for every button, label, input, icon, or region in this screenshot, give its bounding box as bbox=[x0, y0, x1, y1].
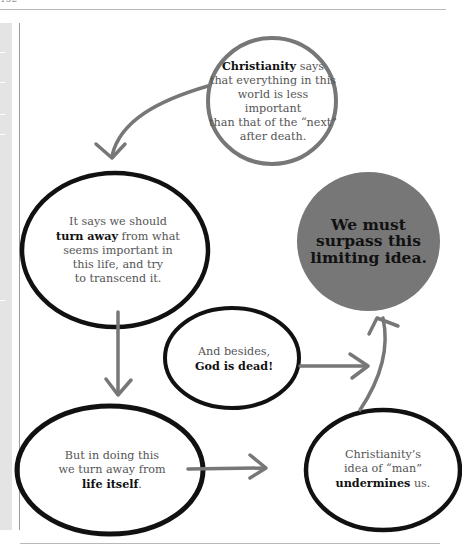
node-life-itself: But in doing this we turn away from life… bbox=[28, 440, 196, 500]
arrow-right-icon bbox=[188, 468, 265, 469]
node-text: It says we should bbox=[56, 215, 180, 229]
node-turn-away: It says we should turn away from what se… bbox=[30, 190, 206, 310]
node-text: . bbox=[138, 478, 142, 491]
node-god-is-dead: And besides, God is dead! bbox=[168, 330, 300, 388]
node-text: world is less important bbox=[208, 88, 338, 116]
node-text: seems important in bbox=[56, 244, 180, 258]
node-text: But in doing this bbox=[58, 449, 165, 463]
node-text-bold: God is dead! bbox=[195, 359, 273, 373]
goal-text: limiting idea. bbox=[310, 248, 427, 267]
node-christianity-says: Christianity says that everything in thi… bbox=[208, 44, 338, 158]
node-text: than that of the “next” bbox=[208, 116, 338, 130]
node-text: idea of “man” bbox=[336, 462, 431, 476]
node-text: says bbox=[296, 60, 324, 73]
node-text-bold: Christianity bbox=[222, 59, 296, 73]
arrowhead-icon bbox=[96, 144, 125, 158]
node-text: And besides, bbox=[195, 345, 273, 359]
node-text: Christianity’s bbox=[336, 448, 431, 462]
node-text: we turn away from bbox=[58, 463, 165, 477]
node-text-bold: life itself bbox=[82, 477, 138, 491]
node-text: us. bbox=[410, 477, 430, 490]
node-text-bold: turn away bbox=[56, 229, 118, 243]
arrow-curved-down-icon bbox=[112, 86, 208, 156]
node-text: to transcend it. bbox=[56, 272, 180, 286]
node-text: from what bbox=[118, 230, 180, 243]
node-text: after death. bbox=[208, 130, 338, 144]
goal-surpass-circle: We must surpass this limiting idea. bbox=[297, 172, 440, 311]
node-undermines: Christianity’s idea of “man” undermines … bbox=[310, 442, 456, 496]
node-text: that everything in this bbox=[208, 74, 338, 88]
node-text-bold: undermines bbox=[336, 476, 411, 490]
node-text: this life, and try bbox=[56, 258, 180, 272]
